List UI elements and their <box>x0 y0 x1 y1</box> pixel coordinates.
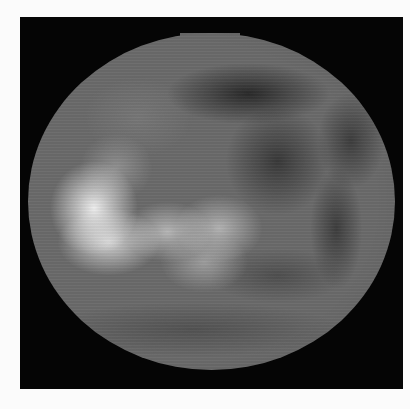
image-canvas <box>0 0 410 409</box>
planetary-disk <box>28 33 395 370</box>
black-frame <box>20 17 403 389</box>
scanline-noise <box>28 33 395 370</box>
